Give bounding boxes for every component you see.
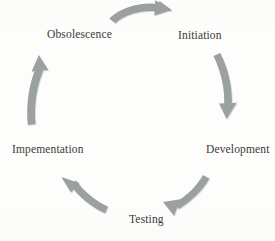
curved-arrow-down-left-body bbox=[175, 175, 209, 209]
stage-label-development: Development bbox=[206, 143, 270, 156]
curved-arrow-down-head bbox=[219, 103, 237, 119]
stage-label-testing: Testing bbox=[129, 213, 164, 226]
curved-arrow-up-body bbox=[27, 68, 43, 125]
cycle-diagram: Initiation Development Testing Impementa… bbox=[0, 0, 275, 241]
curved-arrow-down-body bbox=[214, 53, 232, 106]
stage-label-initiation: Initiation bbox=[178, 29, 222, 42]
stage-label-impementation: Impementation bbox=[12, 143, 84, 156]
curved-arrow-right-head bbox=[154, 0, 171, 15]
cycle-arrow-ring bbox=[0, 0, 275, 241]
curved-arrow-up-head bbox=[32, 55, 49, 71]
stage-label-obsolescence: Obsolescence bbox=[47, 28, 112, 41]
curved-arrow-right-body bbox=[110, 3, 159, 23]
